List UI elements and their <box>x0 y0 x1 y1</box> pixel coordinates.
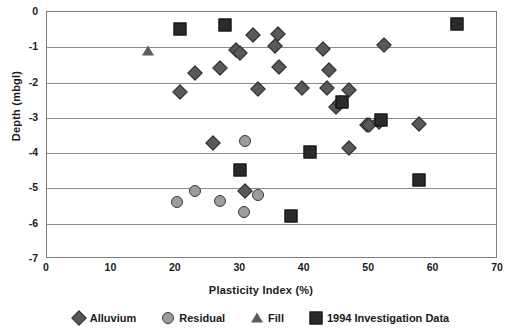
data-point-square <box>234 163 247 176</box>
legend-label: Fill <box>268 312 284 324</box>
gridline <box>47 153 496 154</box>
legend-item[interactable]: Fill <box>251 312 284 324</box>
data-point-square <box>284 209 297 222</box>
data-point-circle <box>189 185 201 197</box>
x-axis-title: Plasticity Index (%) <box>0 284 522 296</box>
square-icon <box>310 312 322 324</box>
chart-legend: AlluviumResidualFill1994 Investigation D… <box>0 307 522 329</box>
x-tick-label: 30 <box>224 262 254 273</box>
data-point-square <box>173 22 186 35</box>
data-point-square <box>219 18 232 31</box>
data-point-diamond <box>321 62 337 78</box>
data-point-circle <box>238 206 250 218</box>
data-point-square <box>374 113 387 126</box>
y-tick-label: -6 <box>8 218 38 229</box>
x-tick-label: 50 <box>353 262 383 273</box>
data-point-diamond <box>267 38 283 54</box>
data-point-diamond <box>316 42 332 58</box>
x-tick-label: 70 <box>482 262 512 273</box>
data-point-triangle <box>142 46 154 56</box>
data-point-circle <box>171 196 183 208</box>
scatter-chart: 0-1-2-3-4-5-6-7 010203040506070 Plastici… <box>0 0 522 333</box>
data-point-diamond <box>376 37 392 53</box>
plot-area <box>46 11 497 258</box>
data-point-diamond <box>205 135 221 151</box>
legend-item[interactable]: Residual <box>162 312 225 324</box>
data-point-circle <box>239 135 251 147</box>
data-point-square <box>450 17 463 30</box>
legend-marker <box>251 313 263 323</box>
diamond-icon <box>73 312 85 324</box>
data-point-diamond <box>237 183 253 199</box>
data-point-circle <box>252 189 264 201</box>
circle-icon <box>162 312 174 324</box>
x-tick-label: 20 <box>160 262 190 273</box>
gridline <box>47 188 496 189</box>
y-axis-title: Depth (mbgl) <box>10 46 22 166</box>
x-tick-label: 10 <box>95 262 125 273</box>
data-point-diamond <box>187 65 203 81</box>
data-point-circle <box>214 195 226 207</box>
legend-marker <box>162 312 174 324</box>
legend-label: 1994 Investigation Data <box>327 312 449 324</box>
data-point-diamond <box>271 59 287 75</box>
data-point-square <box>336 96 349 109</box>
y-tick-label: -5 <box>8 182 38 193</box>
data-point-square <box>303 145 316 158</box>
data-point-diamond <box>212 60 228 76</box>
data-point-diamond <box>172 85 188 101</box>
gridline <box>47 83 496 84</box>
legend-label: Residual <box>179 312 225 324</box>
legend-item[interactable]: 1994 Investigation Data <box>310 312 449 324</box>
x-tick-label: 0 <box>31 262 61 273</box>
legend-marker <box>71 310 87 326</box>
x-tick-label: 60 <box>418 262 448 273</box>
legend-label: Alluvium <box>90 312 136 324</box>
legend-item[interactable]: Alluvium <box>73 312 136 324</box>
legend-marker <box>309 312 322 325</box>
data-point-diamond <box>245 27 261 43</box>
x-tick-label: 40 <box>289 262 319 273</box>
gridline <box>47 224 496 225</box>
y-tick-label: 0 <box>8 6 38 17</box>
gridline <box>47 118 496 119</box>
triangle-icon <box>251 312 263 324</box>
data-point-square <box>413 173 426 186</box>
